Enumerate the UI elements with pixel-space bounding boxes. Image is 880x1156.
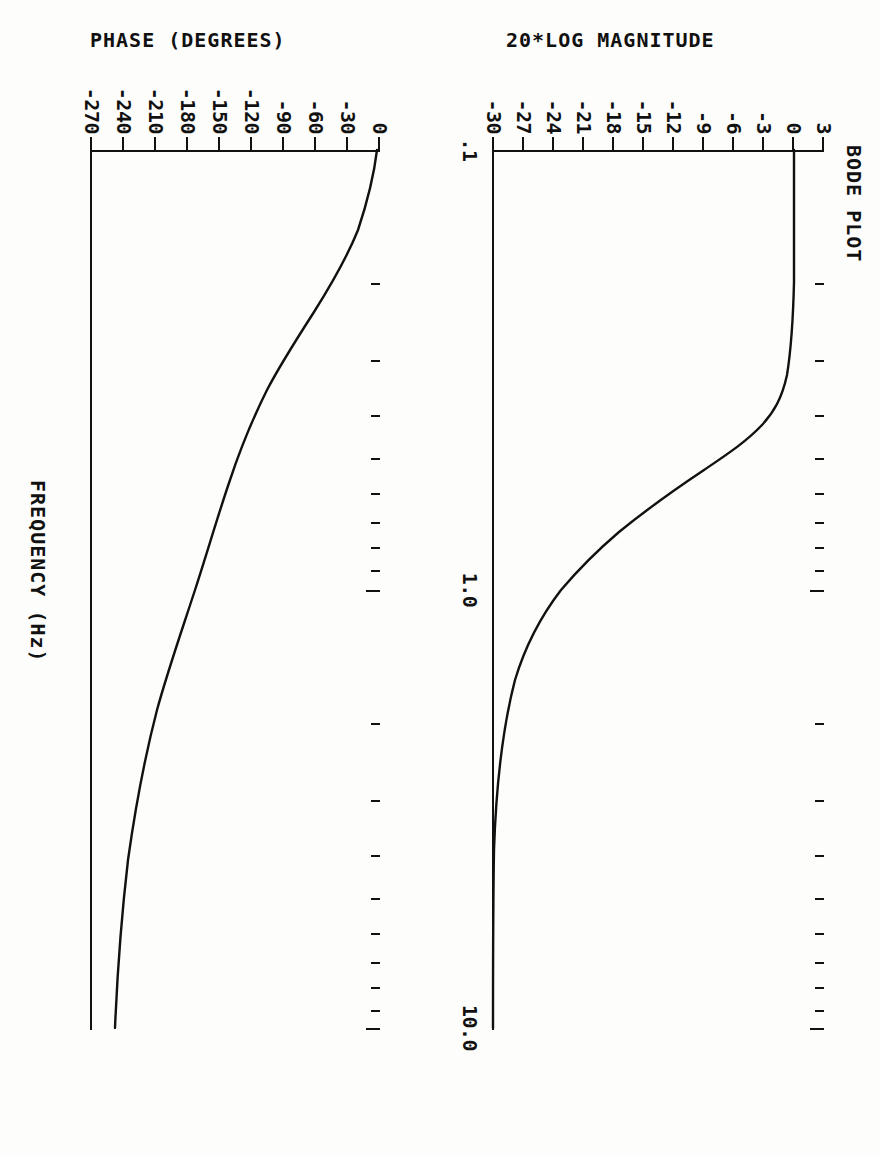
phase-tick (282, 137, 284, 150)
magnitude-tick (762, 137, 764, 150)
phase-panel: 0 -30 -60 -90 -120 -150 -180 -210 -240 -… (92, 150, 380, 1030)
magnitude-tick (492, 137, 494, 150)
phase-tick-label: -210 (144, 88, 168, 134)
magnitude-tick (642, 137, 644, 150)
figure-title: BODE PLOT (842, 145, 866, 262)
bode-plot-figure: 3 0 -3 -6 -9 -12 -15 -18 -21 -24 -27 -30 (0, 0, 880, 1156)
phase-tick-label: -30 (336, 99, 360, 134)
phase-tick (218, 137, 220, 150)
magnitude-tick-label: -15 (632, 99, 656, 134)
magnitude-panel: 3 0 -3 -6 -9 -12 -15 -18 -21 -24 -27 -30 (494, 150, 824, 1030)
x-tick-label-high: 10.0 (458, 1005, 482, 1051)
magnitude-axis-title: 20*LOG MAGNITUDE (506, 28, 715, 52)
magnitude-tick (522, 137, 524, 150)
magnitude-tick (612, 137, 614, 150)
magnitude-tick (672, 137, 674, 150)
magnitude-tick-label: -24 (542, 99, 566, 134)
magnitude-tick (702, 137, 704, 150)
phase-tick-label: -150 (208, 88, 232, 134)
magnitude-tick (552, 137, 554, 150)
phase-tick (250, 137, 252, 150)
phase-tick (154, 137, 156, 150)
phase-tick-label: -270 (80, 88, 104, 134)
x-tick-label-mid: 1.0 (458, 573, 482, 608)
magnitude-tick (792, 137, 794, 150)
phase-axis-title: PHASE (DEGREES) (90, 28, 286, 52)
magnitude-tick-label: -27 (512, 99, 536, 134)
phase-tick-label: -240 (112, 88, 136, 134)
magnitude-curve (492, 150, 824, 1030)
phase-tick-label: 0 (368, 122, 392, 134)
bode-plot-page: 3 0 -3 -6 -9 -12 -15 -18 -21 -24 -27 -30 (0, 0, 880, 1156)
magnitude-tick-label: 0 (782, 122, 806, 134)
magnitude-tick-label: -3 (752, 111, 776, 134)
phase-tick (346, 137, 348, 150)
phase-tick-label: -180 (176, 88, 200, 134)
magnitude-tick (732, 137, 734, 150)
phase-tick (314, 137, 316, 150)
phase-tick (186, 137, 188, 150)
magnitude-tick-label: -12 (662, 99, 686, 134)
magnitude-tick (822, 137, 824, 150)
phase-tick (378, 137, 380, 150)
magnitude-tick-label: -18 (602, 99, 626, 134)
magnitude-tick-label: -6 (722, 111, 746, 134)
frequency-axis-title: FREQUENCY (Hz) (26, 480, 50, 663)
phase-tick (90, 137, 92, 150)
phase-tick-label: -120 (240, 88, 264, 134)
phase-tick (122, 137, 124, 150)
phase-curve (90, 150, 380, 1030)
magnitude-tick (582, 137, 584, 150)
x-tick-label-low: .1 (458, 138, 482, 161)
magnitude-tick-label: -30 (482, 99, 506, 134)
magnitude-tick-label: -9 (692, 111, 716, 134)
phase-tick-label: -90 (272, 99, 296, 134)
magnitude-tick-label: -21 (572, 99, 596, 134)
magnitude-tick-label: 3 (812, 122, 836, 134)
phase-tick-label: -60 (304, 99, 328, 134)
